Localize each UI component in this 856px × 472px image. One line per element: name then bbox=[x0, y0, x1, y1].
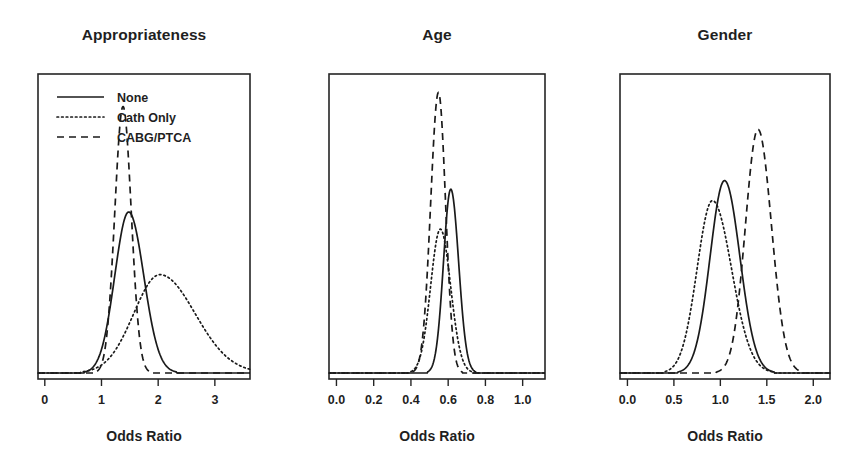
legend-label-none: None bbox=[117, 91, 148, 105]
tick-label: 0.0 bbox=[328, 393, 345, 407]
panel-title: Appropriateness bbox=[82, 26, 207, 43]
tick-label: 1 bbox=[98, 393, 105, 407]
tick-label: 0.6 bbox=[439, 393, 456, 407]
tick-label: 1.0 bbox=[514, 393, 531, 407]
legend-label-cath: Cath Only bbox=[117, 111, 176, 125]
tick-label: 0.4 bbox=[402, 393, 419, 407]
tick-label: 2.0 bbox=[805, 393, 822, 407]
tick-label: 2 bbox=[155, 393, 162, 407]
tick-label: 0.8 bbox=[477, 393, 494, 407]
tick-label: 3 bbox=[211, 393, 218, 407]
x-axis-label: Odds Ratio bbox=[106, 428, 182, 444]
tick-label: 0.5 bbox=[665, 393, 682, 407]
x-axis-label: Odds Ratio bbox=[399, 428, 475, 444]
density-plot-figure: Appropriateness0123Odds RatioNoneCath On… bbox=[0, 0, 856, 472]
legend-label-cabg: CABG/PTCA bbox=[117, 131, 191, 145]
tick-label: 0 bbox=[41, 393, 48, 407]
panel-title: Age bbox=[422, 26, 452, 43]
panel-title: Gender bbox=[698, 26, 753, 43]
tick-label: 1.0 bbox=[712, 393, 729, 407]
tick-label: 1.5 bbox=[758, 393, 775, 407]
x-axis-label: Odds Ratio bbox=[687, 428, 763, 444]
tick-label: 0.0 bbox=[619, 393, 636, 407]
tick-label: 0.2 bbox=[365, 393, 382, 407]
